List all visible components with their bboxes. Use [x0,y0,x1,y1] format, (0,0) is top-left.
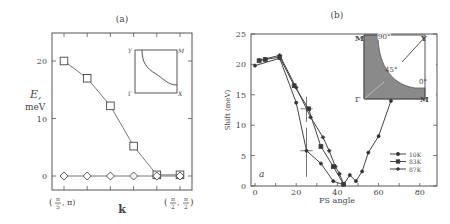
inset-b-0-label: 0° [419,78,427,86]
square-marker [130,142,138,150]
diamond-marker [83,172,91,180]
dot-marker [253,64,256,67]
inset-b-gamma-label: Γ [355,95,361,104]
dot-marker [305,149,308,152]
inset-a-x-label: X [177,90,183,97]
panel-b-x-ticks: 020406080 [252,183,424,197]
svg-text:(: ( [49,197,53,207]
panel-a-y-ticks: 01020 [37,57,192,181]
series-line-87K [259,55,343,184]
inset-a-gamma-label: Γ [128,90,132,97]
panel-b-title: (b) [331,10,344,20]
svg-text:,: , [177,198,180,207]
dot-marker [332,180,335,183]
y-tick-label: 15 [236,91,246,100]
svg-text:5: 5 [56,203,60,210]
panel-b-ylabel: Shift (meV) [224,89,232,130]
inset-b-45-label: 45° [385,66,397,74]
y-tick-label: 25 [236,30,246,39]
y-tick-label: 20 [236,60,246,69]
diamond-marker [327,149,331,153]
diamond-marker [396,167,399,170]
panel-b: (b) 0510152025 020406080 Shift (meV) FS … [224,10,437,205]
dot-marker [396,152,399,155]
figure: (a) 01020 E, meV (π5, π)(π2, π2) k Y M Γ… [0,0,450,224]
x-tick-label: 60 [374,188,384,197]
x-tick-label: 0 [252,188,257,197]
panel-b-inset: M Y Γ M 90° 45° 0° [355,33,436,104]
panel-b-annotation: a [259,169,264,179]
svg-text:): ) [190,197,194,207]
inset-b-90-label: 90° [378,33,390,41]
svg-text:π: π [171,195,175,202]
dot-marker [367,151,370,154]
svg-text:π: π [184,195,188,202]
inset-a-m-label: M [177,47,185,54]
inset-b-y-label: Y [420,33,427,43]
y-tick-label: 5 [241,152,246,161]
dot-marker [354,180,357,183]
inset-b-m-top-label: M [355,33,364,43]
diamond-marker [130,172,138,180]
dot-marker [361,170,364,173]
square-marker [60,57,68,65]
panel-a: (a) 01020 E, meV (π5, π)(π2, π2) k Y M Γ… [25,14,194,216]
panel-a-inset: Y M Γ X [128,47,185,97]
x-tick-label-left: (π5, π) [49,195,75,210]
panel-a-ylabel-e: E, [29,88,42,101]
svg-text:π: π [56,195,60,202]
svg-text:2: 2 [171,203,175,210]
legend-label-10K: 10K [409,151,422,158]
panel-a-xlabel: k [118,203,126,216]
square-marker [83,74,91,82]
square-marker [396,160,399,163]
y-tick-label: 0 [241,182,246,191]
legend-label-83K: 83K [409,158,422,165]
y-tick-label: 20 [37,57,47,66]
dot-marker [295,101,298,104]
x-tick-label-right: (π2, π2) [164,195,194,210]
square-marker [319,145,323,149]
legend-label-87K: 87K [409,166,422,173]
panel-a-ylabel-unit: meV [25,102,46,112]
panel-a-x-ticks [64,33,180,190]
x-tick-label: 20 [291,188,301,197]
svg-text:, π): , π) [62,198,75,207]
diamond-marker [60,172,68,180]
y-tick-label: 10 [37,115,47,124]
dot-marker [377,135,380,138]
y-tick-label: 10 [236,121,246,130]
svg-text:(: ( [164,197,168,207]
square-marker [107,102,115,110]
panel-b-legend: 10K83K87K [390,151,422,173]
dot-marker [319,162,322,165]
svg-text:2: 2 [184,203,188,210]
series-line-83K [259,57,343,184]
panel-a-title: (a) [116,14,128,24]
panel-b-xlabel: FS angle [319,196,355,205]
panel-a-frame [52,33,192,190]
dot-marker [348,173,351,176]
dot-marker [389,99,392,102]
inset-b-m-bottom-label: M [420,94,429,104]
y-tick-label: 0 [42,172,47,181]
x-tick-label: 80 [415,188,425,197]
series-line-squares [64,61,180,175]
inset-a-y-label: Y [128,47,133,54]
diamond-marker [106,172,114,180]
panel-a-series [60,57,184,180]
